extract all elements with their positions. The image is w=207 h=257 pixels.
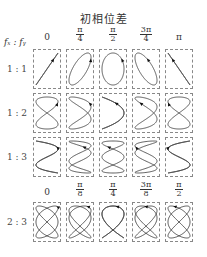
bottom-phase-header-2: π4 [99, 181, 127, 198]
top-phase-header-3: 3π4 [132, 26, 160, 43]
lissajous-curve-icon [133, 50, 159, 88]
top-phase-header-2: π2 [99, 26, 127, 43]
phase-denominator: 2 [176, 190, 181, 198]
phase-value: π [165, 32, 193, 42]
lissajous-figure [165, 93, 193, 133]
phase-denominator: 4 [110, 190, 115, 198]
lissajous-figure [99, 49, 127, 89]
top-phase-header-4: π [165, 26, 193, 42]
lissajous-figure [66, 137, 94, 177]
lissajous-curve-icon [67, 50, 93, 88]
direction-arrow-icon [56, 147, 60, 151]
lissajous-figure [33, 49, 61, 89]
ratio-label-1: 1 : 2 [3, 108, 31, 118]
phase-value: 0 [33, 32, 61, 42]
phase-value: 0 [33, 187, 61, 197]
diagram-title: 初相位差 [0, 10, 207, 26]
lissajous-curve-icon [100, 94, 126, 132]
lissajous-figure [132, 93, 160, 133]
ratio-label-3: 2 : 3 [3, 217, 31, 227]
bottom-phase-header-0: 0 [33, 181, 61, 197]
lissajous-curve-icon [166, 50, 192, 88]
lissajous-figure [33, 202, 61, 242]
phase-denominator: 4 [77, 35, 82, 43]
lissajous-figure [99, 93, 127, 133]
lissajous-curve-icon [133, 94, 159, 132]
phase-denominator: 8 [143, 190, 148, 198]
lissajous-curve-icon [34, 94, 60, 132]
lissajous-curve-icon [166, 203, 192, 241]
direction-arrow-icon [172, 59, 175, 63]
lissajous-curve-icon [34, 50, 60, 88]
lissajous-figure [33, 137, 61, 177]
phase-denominator: 4 [143, 35, 148, 43]
lissajous-curve-icon [34, 203, 60, 241]
lissajous-figure [99, 202, 127, 242]
lissajous-figure [132, 49, 160, 89]
ratio-label-0: 1 : 1 [3, 64, 31, 74]
lissajous-curve-icon [133, 138, 159, 176]
frequency-ratio-axis-label: fₓ : fᵧ [4, 37, 26, 47]
lissajous-curve-icon [166, 94, 192, 132]
lissajous-curve-icon [100, 203, 126, 241]
top-phase-header-1: π4 [66, 26, 94, 43]
bottom-phase-header-4: π2 [165, 181, 193, 198]
ratio-label-2: 1 : 3 [3, 152, 31, 162]
direction-arrow-icon [51, 59, 54, 63]
direction-arrow-icon [166, 147, 170, 151]
lissajous-curve-icon [100, 50, 126, 88]
phase-denominator: 2 [110, 35, 115, 43]
lissajous-curve-icon [166, 138, 192, 176]
lissajous-figure [66, 202, 94, 242]
lissajous-curve-icon [34, 138, 60, 176]
lissajous-curve-icon [67, 94, 93, 132]
lissajous-figure [66, 93, 94, 133]
lissajous-curve-icon [100, 138, 126, 176]
direction-arrow-icon [89, 103, 93, 107]
bottom-phase-header-1: π8 [66, 181, 94, 198]
direction-arrow-icon [135, 147, 139, 151]
lissajous-figure [99, 137, 127, 177]
lissajous-figure [165, 49, 193, 89]
top-phase-header-0: 0 [33, 26, 61, 42]
lissajous-figure [132, 137, 160, 177]
lissajous-curve-icon [67, 138, 93, 176]
lissajous-figure [132, 202, 160, 242]
bottom-phase-header-3: 3π8 [132, 181, 160, 198]
lissajous-curve-icon [67, 203, 93, 241]
lissajous-curve-icon [133, 203, 159, 241]
lissajous-figure [66, 49, 94, 89]
phase-denominator: 8 [77, 190, 82, 198]
lissajous-figure [33, 93, 61, 133]
lissajous-figure [165, 137, 193, 177]
lissajous-figure [165, 202, 193, 242]
